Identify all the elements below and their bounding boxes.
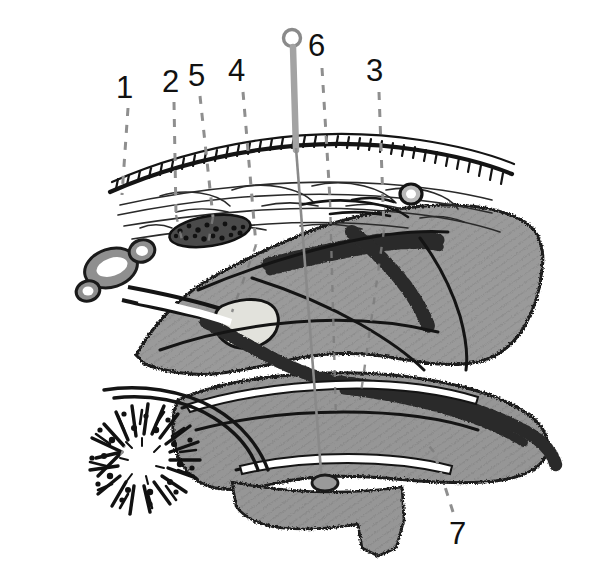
label-4: 4: [228, 55, 245, 86]
small-ring-nodule: [400, 184, 422, 204]
figure-root: 1 2 5 4 6 3 7: [0, 0, 592, 588]
label-3: 3: [366, 55, 383, 86]
anatomical-section-illustration: [0, 0, 592, 588]
label-1: 1: [116, 72, 133, 103]
pin-shaft-thick: [293, 47, 296, 150]
label-2: 2: [162, 66, 179, 97]
label-7: 7: [449, 518, 466, 549]
label-5: 5: [188, 60, 205, 91]
pin-entry-oval: [312, 475, 338, 491]
label-6: 6: [308, 30, 325, 61]
